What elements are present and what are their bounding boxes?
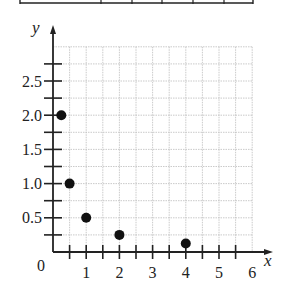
data-point bbox=[114, 230, 124, 240]
y-tick-label: 0.5 bbox=[22, 209, 42, 226]
tick-labels: 1234560.51.01.52.02.5 bbox=[22, 73, 256, 282]
data-point bbox=[56, 110, 66, 120]
y-tick-label: 2.5 bbox=[22, 73, 42, 90]
data-point bbox=[181, 238, 191, 248]
y-axis-label: y bbox=[30, 18, 40, 37]
x-tick-label: 5 bbox=[215, 264, 223, 281]
table-fragment bbox=[20, 0, 253, 4]
y-tick-label: 2.0 bbox=[22, 107, 42, 124]
x-tick-label: 6 bbox=[248, 264, 256, 281]
data-point bbox=[81, 213, 91, 223]
x-tick-label: 3 bbox=[149, 264, 157, 281]
x-tick-label: 2 bbox=[115, 264, 123, 281]
x-axis-label: x bbox=[263, 251, 272, 270]
x-tick-label: 1 bbox=[82, 264, 90, 281]
y-tick-label: 1.0 bbox=[22, 175, 42, 192]
x-tick-label: 4 bbox=[182, 264, 190, 281]
scatter-chart: 1234560.51.01.52.02.5 x y 0 bbox=[0, 0, 290, 292]
y-tick-label: 1.5 bbox=[22, 141, 42, 158]
data-point bbox=[65, 179, 75, 189]
axis-ticks bbox=[44, 64, 236, 259]
data-points bbox=[56, 110, 191, 248]
origin-label: 0 bbox=[37, 257, 45, 274]
